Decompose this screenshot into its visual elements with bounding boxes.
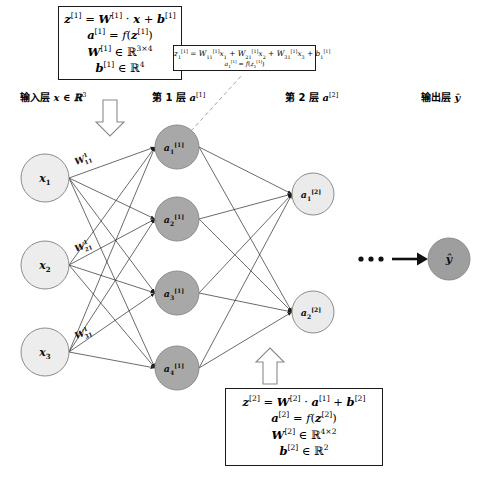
layer-2-formula-box: z[2] = W[2] · a[1] + b[2] a[2] = f(z[2])…	[225, 388, 383, 466]
layer-label-layer2-math: a[2]	[322, 92, 338, 103]
svg-text:W111: W111	[73, 151, 94, 169]
ellipsis-dots	[358, 256, 383, 261]
formula-line: W[1] ∈ ℝ3×4	[59, 44, 181, 60]
layer-label-output-math: ŷ	[454, 92, 460, 103]
flow-arrow-to-output	[392, 253, 428, 266]
layer-label-layer2: 第 2 层 a[2]	[285, 89, 338, 104]
svg-text:W131: W131	[73, 325, 94, 343]
input-node-x1: x1	[21, 154, 69, 202]
hidden-node-a4: a4[1]	[155, 346, 199, 390]
input-node-x2: x2	[21, 241, 69, 289]
weight-label-w11: W111	[73, 151, 94, 169]
layer-label-input-text: 输入层	[20, 92, 50, 103]
layer-label-input-math: x ∈ ℝ3	[53, 92, 86, 103]
hidden-node-a1: a1[1]	[155, 125, 199, 169]
formula-line: z1[1] = W11[1]x1 + W21[1]x2 + W31[1]x3 +…	[174, 48, 315, 60]
layer-label-output: 输出层 ŷ	[421, 89, 460, 104]
formula-line: a[2] = f(z[2])	[226, 410, 382, 426]
layer-label-layer1-math: a[1]	[189, 92, 205, 103]
svg-text:W121: W121	[73, 238, 94, 256]
formula-line: b[1] ∈ ℝ4	[59, 60, 181, 76]
layer-label-layer2-text: 第 2 层	[285, 92, 319, 103]
layer-label-input: 输入层 x ∈ ℝ3	[20, 89, 86, 104]
formula-line: b[2] ∈ ℝ2	[226, 443, 382, 459]
formula-line: a1[1] = f(z1[1])	[174, 60, 315, 70]
input-node-x3: x3	[21, 328, 69, 376]
layer-label-output-text: 输出层	[421, 92, 451, 103]
hidden-node-a3: a3[1]	[155, 271, 199, 315]
formula-line: W[2] ∈ ℝ4×2	[226, 427, 382, 443]
layer-1-formula-box: z[1] = W[1] · x + b[1] a[1] = f(z[1]) W[…	[58, 6, 182, 80]
formula-line: a[1] = f(z[1])	[59, 27, 181, 43]
neuron-detail-box: z1[1] = W11[1]x1 + W21[1]x2 + W31[1]x3 +…	[173, 45, 316, 71]
layer2-node-a2: a2[2]	[292, 291, 334, 333]
down-block-arrow	[96, 100, 124, 136]
layer2-node-a1: a1[2]	[292, 173, 334, 215]
output-node-yhat: ŷ	[428, 238, 470, 280]
up-block-arrow	[256, 348, 284, 384]
layer-label-layer1-text: 第 1 层	[152, 92, 186, 103]
diagram-canvas: z[1] = W[1] · x + b[1] a[1] = f(z[1]) W[…	[0, 0, 482, 480]
formula-line: z[2] = W[2] · a[1] + b[2]	[226, 394, 382, 410]
weight-label-w21: W121	[73, 238, 94, 256]
layer-label-layer1: 第 1 层 a[1]	[152, 89, 205, 104]
weight-label-w31: W131	[73, 325, 94, 343]
formula-line: z[1] = W[1] · x + b[1]	[59, 11, 181, 27]
hidden-node-a2: a2[1]	[155, 197, 199, 241]
edges-hidden-to-layer2	[199, 147, 292, 368]
